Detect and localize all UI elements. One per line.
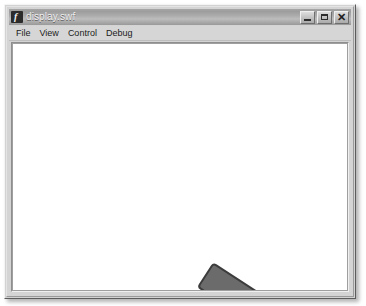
- title-bar[interactable]: f display.swf ✕: [9, 9, 351, 25]
- window-controls: ✕: [300, 11, 350, 24]
- menu-item-control[interactable]: Control: [64, 27, 102, 40]
- flash-player-window: f display.swf ✕ File V: [4, 4, 356, 299]
- flash-stage[interactable]: [13, 44, 347, 290]
- menu-item-view[interactable]: View: [36, 27, 64, 40]
- flash-player-icon: f: [11, 11, 23, 23]
- client-area: [11, 42, 349, 292]
- close-icon: ✕: [335, 11, 348, 24]
- maximize-icon: [321, 14, 328, 20]
- minimize-button[interactable]: [300, 11, 315, 24]
- flash-f-glyph: f: [14, 11, 17, 23]
- rotating-bar: [197, 262, 301, 290]
- close-button[interactable]: ✕: [334, 11, 349, 24]
- menu-item-file[interactable]: File: [12, 27, 36, 40]
- desktop-background: f display.swf ✕ File V: [0, 0, 366, 306]
- window-inner-frame: f display.swf ✕ File V: [6, 6, 354, 297]
- minimize-icon: [304, 19, 311, 21]
- menu-item-debug[interactable]: Debug: [102, 27, 138, 40]
- menu-bar: File View Control Debug: [9, 26, 351, 41]
- maximize-button[interactable]: [317, 11, 332, 24]
- window-title: display.swf: [26, 11, 300, 23]
